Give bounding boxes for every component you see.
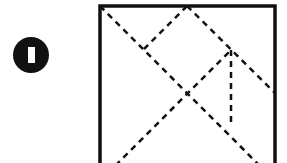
dashed-line-top-mid-to-diagonal	[144, 6, 187, 49]
tangram-canvas	[0, 0, 287, 163]
dashed-line-top-mid-to-right-mid	[187, 6, 275, 93]
dashed-line-main-diagonal	[100, 6, 275, 163]
outer-square	[100, 6, 275, 163]
dashed-line-anti-diagonal	[100, 50, 231, 163]
dashed-cut-lines	[100, 6, 275, 163]
badge-number-glyph	[28, 47, 35, 63]
number-badge	[13, 37, 49, 73]
